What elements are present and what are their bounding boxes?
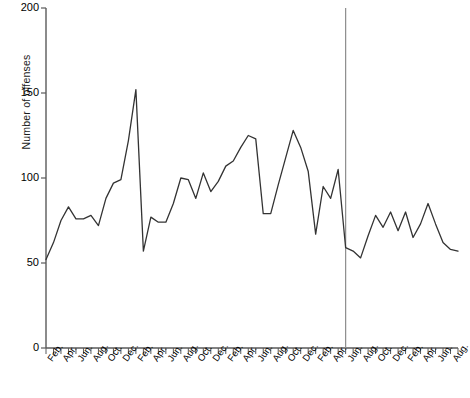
offenses-series-line [46, 90, 458, 260]
axes [41, 8, 458, 354]
y-tick-marks [41, 8, 46, 348]
